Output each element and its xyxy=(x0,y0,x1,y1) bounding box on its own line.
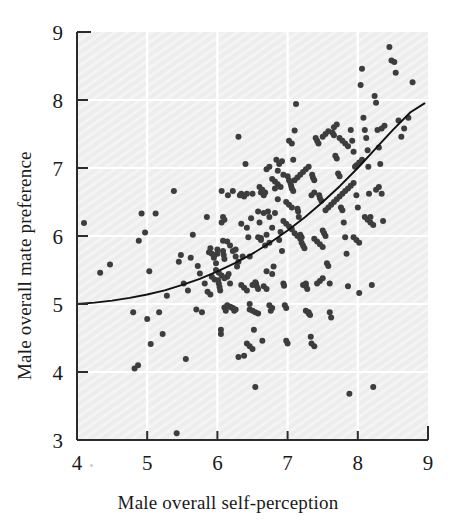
x-tick-label: 7 xyxy=(282,451,293,475)
x-tick-label: 5 xyxy=(142,451,153,475)
y-tick-label: 7 xyxy=(53,157,64,181)
y-tick-label: 9 xyxy=(53,21,64,45)
scatter-plot-figure: 456789 3456789 Male overall self-percept… xyxy=(0,0,456,526)
y-tick-label: 8 xyxy=(53,89,64,113)
y-axis-label: Male overall mate preference xyxy=(14,151,36,380)
x-tick-label: 8 xyxy=(353,451,364,475)
x-tick-label: 6 xyxy=(212,451,223,475)
x-tick-label: 4 xyxy=(72,451,83,475)
y-tick-label: 4 xyxy=(53,361,64,385)
plot-canvas: 456789 3456789 xyxy=(0,0,456,526)
y-tick-label: 6 xyxy=(53,225,64,249)
print-smudge-mark xyxy=(90,464,93,467)
x-tick-label: 9 xyxy=(423,451,434,475)
y-tick-label: 3 xyxy=(53,429,64,453)
y-tick-label: 5 xyxy=(53,293,64,317)
x-axis-label: Male overall self-perception xyxy=(0,492,456,514)
